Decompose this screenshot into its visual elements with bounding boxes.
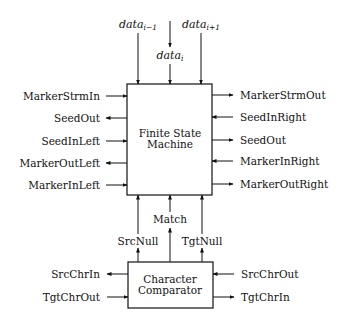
seed-out-right-label: SeedOut	[240, 134, 287, 146]
fsm-right-ports: MarkerStrmOut SeedInRight SeedOut Marker…	[212, 89, 329, 190]
seed-in-right-label: SeedInRight	[240, 111, 307, 123]
data-next-label: datai+1	[182, 18, 220, 32]
marker-out-left-label: MarkerOutLeft	[19, 157, 100, 169]
seed-in-left-label: SeedInLeft	[41, 135, 100, 147]
tgt-chr-in-label: TgtChrIn	[241, 291, 290, 303]
tgt-chr-out-label: TgtChrOut	[43, 291, 101, 303]
fsm-left-ports: MarkerStrmIn SeedOut SeedInLeft MarkerOu…	[19, 90, 127, 191]
finite-state-machine-block: Finite State Machine	[127, 84, 212, 195]
src-null-label: SrcNull	[118, 235, 159, 247]
character-comparator-block: Character Comparator	[128, 262, 213, 308]
src-chr-in-label: SrcChrIn	[51, 268, 100, 280]
comparator-right-ports: SrcChrOut TgtChrIn	[213, 268, 299, 303]
match-label: Match	[153, 213, 187, 225]
seed-out-left-label: SeedOut	[54, 112, 101, 124]
marker-strm-in-label: MarkerStrmIn	[23, 90, 100, 102]
marker-in-right-label: MarkerInRight	[240, 155, 320, 167]
marker-in-left-label: MarkerInLeft	[28, 179, 101, 191]
comparator-left-ports: SrcChrIn TgtChrOut	[43, 268, 128, 303]
marker-out-right-label: MarkerOutRight	[240, 178, 329, 190]
tgt-null-label: TgtNull	[182, 235, 223, 247]
comparator-label-line2: Comparator	[138, 284, 203, 296]
block-diagram: Finite State Machine datai−1 datai datai…	[0, 0, 340, 329]
data-current-label: datai	[157, 49, 185, 63]
marker-strm-out-label: MarkerStrmOut	[240, 89, 326, 101]
data-inputs: datai−1 datai datai+1	[119, 18, 220, 84]
src-chr-out-label: SrcChrOut	[241, 268, 299, 280]
comparator-to-fsm-signals: SrcNull Match TgtNull	[118, 195, 223, 262]
data-prev-label: datai−1	[119, 18, 157, 32]
fsm-label-line2: Machine	[147, 138, 193, 150]
